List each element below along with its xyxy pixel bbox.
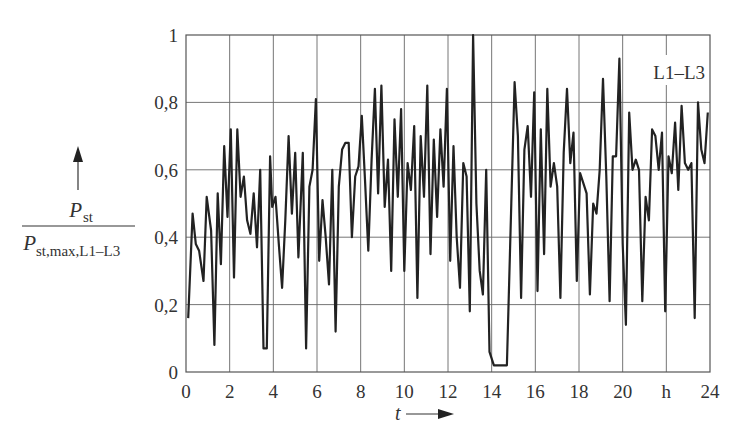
line-chart: 00,20,40,60,81 02468101214161820h24 L1–L… (0, 0, 745, 447)
x-tick-label: 24 (701, 381, 721, 402)
x-tick-label: 4 (269, 381, 279, 402)
x-tick-label: 8 (356, 381, 366, 402)
x-label: t (395, 402, 401, 424)
x-tick-label: 14 (482, 381, 502, 402)
y-label-numerator-sub: st (83, 209, 94, 225)
x-tick-label: 18 (570, 381, 589, 402)
x-tick-label: 2 (225, 381, 235, 402)
x-tick-label: 6 (312, 381, 322, 402)
y-tick-label: 0,2 (154, 295, 178, 316)
y-tick-label: 1 (169, 25, 179, 46)
y-axis-ticks: 00,20,40,60,81 (154, 25, 178, 383)
x-axis-ticks: 02468101214161820h24 (181, 381, 720, 402)
y-tick-label: 0,8 (154, 92, 178, 113)
x-tick-label: 20 (613, 381, 632, 402)
y-axis-arrow-icon (73, 146, 83, 162)
series-label: L1–L3 (653, 62, 705, 83)
y-axis-label: P st P st,max,L1–L3 (22, 146, 135, 259)
y-tick-label: 0,6 (154, 160, 178, 181)
x-tick-label: 0 (181, 381, 191, 402)
x-axis-label: t (395, 402, 454, 424)
x-tick-label: 12 (439, 381, 458, 402)
x-axis-arrow-icon (438, 409, 454, 419)
y-tick-label: 0 (169, 362, 179, 383)
y-label-denominator: P (22, 231, 36, 255)
y-tick-label: 0,4 (154, 227, 178, 248)
y-label-numerator: P (68, 198, 82, 222)
x-tick-label: 16 (526, 381, 545, 402)
x-tick-label: h (662, 381, 672, 402)
x-tick-label: 10 (395, 381, 414, 402)
y-label-denominator-sub: st,max,L1–L3 (36, 243, 120, 259)
